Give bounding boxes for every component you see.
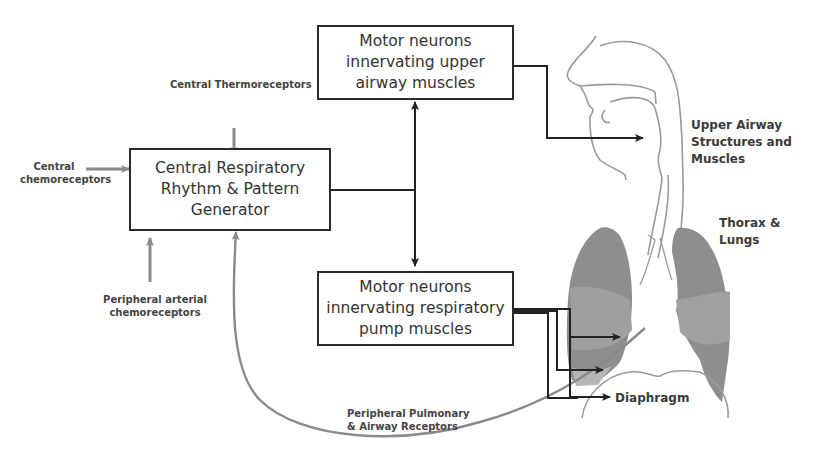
pulmonary-line-2: & Airway Receptors — [347, 420, 470, 433]
upper-airway-line-2: Structures and Muscles — [691, 134, 835, 168]
central-chemoreceptors-label: Central chemoreceptors — [20, 160, 88, 186]
upper-airway-line-1: Upper Airway — [691, 117, 835, 134]
cprg-box: Central Respiratory Rhythm & Pattern Gen… — [129, 148, 331, 231]
peripheral-chemo-line-1: Peripheral arterial — [100, 293, 210, 306]
cprg-line-2: Rhythm & Pattern — [155, 179, 305, 200]
cprg-line-3: Generator — [155, 200, 305, 221]
pump-box-line-2: innervating respiratory — [326, 298, 504, 319]
central-thermoreceptors-label: Central Thermoreceptors — [170, 78, 312, 91]
pump-motor-box: Motor neurons innervating respiratory pu… — [317, 271, 514, 346]
upper-box-line-3: airway muscles — [346, 73, 485, 94]
peripheral-chemo-line-2: chemoreceptors — [100, 306, 210, 319]
pump-box-line-3: pump muscles — [326, 319, 504, 340]
upper-box-line-2: innervating upper — [346, 52, 485, 73]
head-airway-illustration — [567, 36, 683, 258]
pump-box-line-1: Motor neurons — [326, 277, 504, 298]
upper-airway-motor-box: Motor neurons innervating upper airway m… — [317, 25, 514, 100]
thorax-lungs-label: Thorax & Lungs — [719, 215, 780, 249]
central-chemo-line-2: chemoreceptors — [20, 173, 88, 186]
thorax-line-2: Lungs — [719, 232, 780, 249]
upper-box-line-1: Motor neurons — [346, 31, 485, 52]
thorax-line-1: Thorax & — [719, 215, 780, 232]
pulmonary-line-1: Peripheral Pulmonary — [347, 407, 470, 420]
central-chemo-line-1: Central — [20, 160, 88, 173]
cprg-line-1: Central Respiratory — [155, 158, 305, 179]
peripheral-arterial-chemoreceptors-label: Peripheral arterial chemoreceptors — [100, 293, 210, 319]
diaphragm-label: Diaphragm — [615, 390, 689, 407]
pulmonary-receptors-label: Peripheral Pulmonary & Airway Receptors — [347, 407, 470, 433]
upper-airway-label: Upper Airway Structures and Muscles — [691, 117, 835, 168]
